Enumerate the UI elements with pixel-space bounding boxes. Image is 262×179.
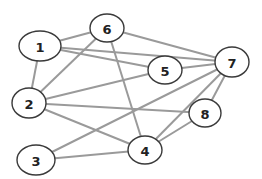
node-4: 4: [128, 136, 162, 164]
graph-diagram: 16572834: [0, 0, 262, 179]
node-6: 6: [90, 14, 124, 42]
edge-2-4: [29, 103, 145, 150]
node-label: 7: [227, 56, 236, 71]
node-label: 3: [31, 154, 40, 169]
node-5: 5: [148, 56, 182, 84]
nodes-layer: 16572834: [12, 14, 249, 175]
node-7: 7: [215, 47, 249, 77]
edge-2-8: [29, 103, 205, 113]
node-label: 4: [140, 144, 149, 159]
node-1: 1: [19, 31, 61, 61]
node-8: 8: [189, 99, 221, 127]
node-3: 3: [17, 145, 55, 175]
node-label: 1: [35, 40, 44, 55]
edge-6-4: [107, 28, 145, 150]
node-2: 2: [12, 88, 46, 118]
node-label: 6: [102, 22, 111, 37]
node-label: 8: [200, 107, 209, 122]
edge-5-2: [29, 70, 165, 103]
node-label: 2: [24, 97, 33, 112]
node-label: 5: [160, 64, 169, 79]
